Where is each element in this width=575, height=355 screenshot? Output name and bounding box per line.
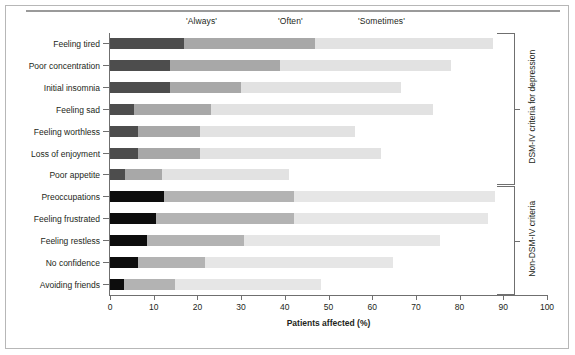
x-axis-tick — [503, 296, 504, 300]
bar-segment-some[interactable] — [294, 191, 495, 202]
bar-segment-often[interactable] — [170, 60, 281, 71]
y-axis-line — [109, 33, 110, 295]
x-axis-tick — [110, 296, 111, 300]
bar-segment-often[interactable] — [134, 104, 210, 115]
bar-segment-often[interactable] — [138, 126, 200, 137]
bar-segment-often[interactable] — [125, 169, 162, 180]
bar-segment-often[interactable] — [156, 213, 293, 224]
bar-row[interactable]: Loss of enjoyment — [0, 148, 575, 159]
bar-segment-always[interactable] — [110, 60, 170, 71]
column-header-always: 'Always' — [186, 16, 217, 26]
y-axis-tick — [103, 218, 109, 219]
bar-segment-always[interactable] — [110, 213, 156, 224]
bar-segment-some[interactable] — [280, 60, 450, 71]
y-axis-tick — [103, 109, 109, 110]
y-axis-tick — [103, 262, 109, 263]
bar-row[interactable]: Feeling worthless — [0, 126, 575, 137]
bar-row[interactable]: Poor concentration — [0, 60, 575, 71]
x-axis-tick-label: 10 — [149, 302, 158, 312]
bar-category-label: Feeling worthless — [0, 127, 100, 137]
bar-category-label: Feeling restless — [0, 236, 100, 246]
top-rule-divider — [26, 10, 560, 12]
bar-segment-always[interactable] — [110, 169, 125, 180]
bar-row[interactable]: Avoiding friends — [0, 279, 575, 290]
x-axis-tick-label: 100 — [540, 302, 554, 312]
bar-row[interactable]: Feeling restless — [0, 235, 575, 246]
y-axis-tick — [103, 240, 109, 241]
x-axis-tick — [241, 296, 242, 300]
bar-row[interactable]: Preoccupations — [0, 191, 575, 202]
x-axis-tick-label: 60 — [367, 302, 376, 312]
x-axis-tick — [372, 296, 373, 300]
bar-segment-often[interactable] — [124, 279, 175, 290]
bar-segment-always[interactable] — [110, 82, 170, 93]
bar-category-label: No confidence — [0, 258, 100, 268]
group-bracket-label: Non-DSM-IV criteria — [527, 184, 537, 293]
x-axis-tick — [416, 296, 417, 300]
figure-container: 'Always' 'Often' 'Sometimes' Feeling tir… — [0, 0, 575, 355]
group-bracket-label: DSM-IV criteria for depression — [527, 31, 537, 183]
y-axis-tick — [103, 87, 109, 88]
bar-category-label: Feeling sad — [0, 105, 100, 115]
column-headers: 'Always' 'Often' 'Sometimes' — [0, 16, 575, 30]
y-axis-tick — [103, 131, 109, 132]
group-bracket-tick — [515, 241, 520, 242]
bar-row[interactable]: Feeling frustrated — [0, 213, 575, 224]
bar-segment-always[interactable] — [110, 38, 184, 49]
bar-segment-some[interactable] — [205, 257, 393, 268]
bar-segment-some[interactable] — [162, 169, 289, 180]
bar-category-label: Preoccupations — [0, 192, 100, 202]
bar-segment-often[interactable] — [164, 191, 293, 202]
bar-segment-often[interactable] — [170, 82, 241, 93]
bar-segment-always[interactable] — [110, 148, 138, 159]
bar-segment-always[interactable] — [110, 104, 134, 115]
bar-row[interactable]: Poor appetite — [0, 169, 575, 180]
bar-row[interactable]: Feeling tired — [0, 38, 575, 49]
bar-segment-some[interactable] — [244, 235, 440, 246]
bar-category-label: Avoiding friends — [0, 280, 100, 290]
bar-segment-always[interactable] — [110, 235, 147, 246]
x-axis-tick-label: 20 — [193, 302, 202, 312]
x-axis-tick — [197, 296, 198, 300]
bar-segment-some[interactable] — [200, 148, 381, 159]
group-bracket — [497, 186, 515, 295]
bar-category-label: Feeling frustrated — [0, 214, 100, 224]
x-axis-tick-label: 30 — [236, 302, 245, 312]
bar-segment-always[interactable] — [110, 191, 164, 202]
bar-row[interactable]: Feeling sad — [0, 104, 575, 115]
bar-category-label: Poor appetite — [0, 170, 100, 180]
bar-segment-always[interactable] — [110, 257, 138, 268]
x-axis-tick-label: 70 — [411, 302, 420, 312]
column-header-sometimes: 'Sometimes' — [358, 16, 405, 26]
bar-category-label: Loss of enjoyment — [0, 149, 100, 159]
group-bracket — [497, 33, 515, 185]
bar-segment-some[interactable] — [241, 82, 401, 93]
bar-row[interactable]: No confidence — [0, 257, 575, 268]
bar-segment-often[interactable] — [138, 148, 200, 159]
bar-segment-some[interactable] — [211, 104, 434, 115]
bar-segment-some[interactable] — [200, 126, 355, 137]
x-axis-tick — [329, 296, 330, 300]
bar-segment-some[interactable] — [315, 38, 492, 49]
y-axis-tick — [103, 65, 109, 66]
bar-row[interactable]: Initial insomnia — [0, 82, 575, 93]
bar-segment-some[interactable] — [175, 279, 321, 290]
bar-segment-often[interactable] — [184, 38, 315, 49]
bar-category-label: Initial insomnia — [0, 83, 100, 93]
y-axis-tick — [103, 284, 109, 285]
x-axis-tick — [460, 296, 461, 300]
x-axis-tick — [154, 296, 155, 300]
x-axis-tick-label: 0 — [108, 302, 113, 312]
bar-segment-often[interactable] — [147, 235, 244, 246]
bar-segment-often[interactable] — [138, 257, 205, 268]
bar-segment-some[interactable] — [294, 213, 488, 224]
bar-segment-always[interactable] — [110, 279, 124, 290]
bar-segment-always[interactable] — [110, 126, 138, 137]
y-axis-tick — [103, 174, 109, 175]
x-axis-tick — [285, 296, 286, 300]
y-axis-tick — [103, 196, 109, 197]
x-axis-tick-label: 80 — [455, 302, 464, 312]
y-axis-tick — [103, 43, 109, 44]
bar-category-label: Poor concentration — [0, 61, 100, 71]
x-axis-tick-label: 40 — [280, 302, 289, 312]
